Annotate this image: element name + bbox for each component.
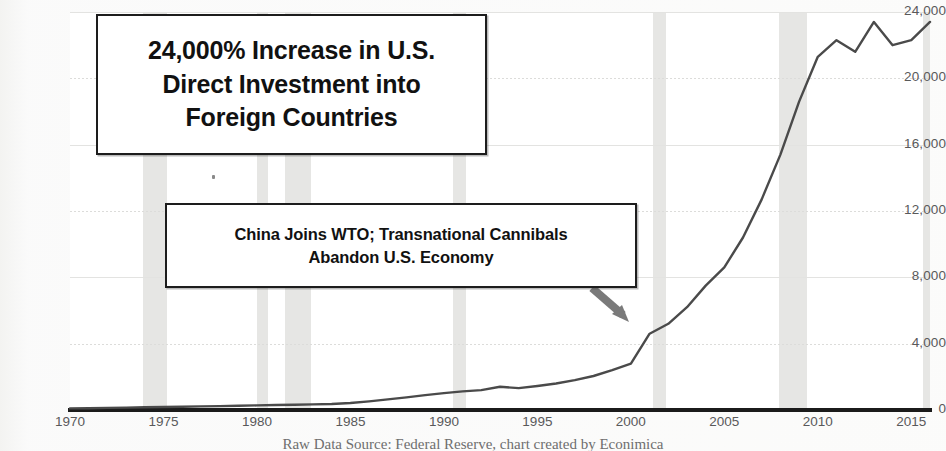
chart-figure: 04,0008,00012,00016,00020,00024,000 1970… [0,0,946,451]
x-tick-label-2015: 2015 [881,414,941,429]
x-tick-label-2005: 2005 [694,414,754,429]
y-tick-label-8000: 8,000 [886,268,946,283]
x-tick-label-1990: 1990 [414,414,474,429]
x-tick-label-2010: 2010 [788,414,848,429]
x-tick-label-1985: 1985 [320,414,380,429]
x-tick-label-1995: 1995 [507,414,567,429]
annotation-line-1: China Joins WTO; Transnational Cannibals [234,223,567,245]
scan-speck [212,175,215,179]
gridline-y-4000 [70,344,930,345]
source-caption: Raw Data Source: Federal Reserve, chart … [0,436,946,451]
x-tick-label-1980: 1980 [227,414,287,429]
x-tick-label-2000: 2000 [601,414,661,429]
y-tick-label-24000: 24,000 [886,3,946,18]
gridline-y-24000 [70,12,930,13]
annotation-line-2: Abandon U.S. Economy [308,246,493,268]
title-line-1: 24,000% Increase in U.S. [148,34,435,68]
x-tick-label-1975: 1975 [133,414,193,429]
title-callout-box: 24,000% Increase in U.S. Direct Investme… [96,14,487,155]
y-tick-label-4000: 4,000 [886,335,946,350]
x-axis-line [68,408,932,412]
y-tick-label-16000: 16,000 [886,136,946,151]
annotation-callout-box: China Joins WTO; Transnational Cannibals… [165,203,637,288]
title-line-2: Direct Investment into [162,68,420,102]
title-line-3: Foreign Countries [186,101,398,135]
x-tick-label-1970: 1970 [40,414,100,429]
y-tick-label-20000: 20,000 [886,69,946,84]
y-tick-label-12000: 12,000 [886,202,946,217]
